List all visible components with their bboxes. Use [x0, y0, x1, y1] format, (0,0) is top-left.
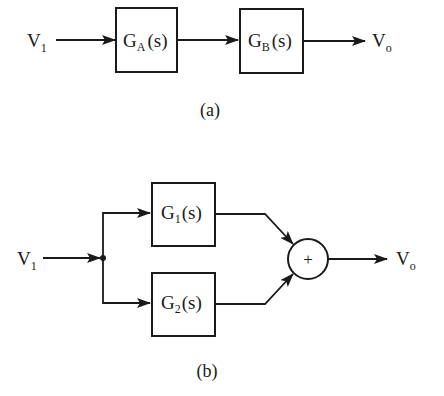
summing-plus-sign: +	[303, 250, 313, 269]
block-g1-label: G1(s)	[161, 202, 202, 226]
caption-b: (b)	[197, 361, 218, 382]
diagram-a-series: V1 GA(s) GB(s) Vo (a)	[27, 8, 392, 121]
block-diagrams: V1 GA(s) GB(s) Vo (a) V1 G1(s) G2(	[0, 0, 444, 396]
output-label-b: Vo	[396, 248, 416, 273]
caption-a: (a)	[200, 100, 220, 121]
input-label-b: V1	[17, 248, 37, 273]
input-label-a: V1	[27, 30, 47, 55]
branch-arrow-lower	[103, 258, 150, 303]
output-label-a: Vo	[372, 30, 392, 55]
branch-arrow-upper	[103, 213, 150, 258]
arrow-g1-sum	[215, 214, 293, 244]
arrow-g2-sum	[215, 274, 293, 304]
block-g2-label: G2(s)	[161, 292, 202, 316]
diagram-b-parallel: V1 G1(s) G2(s) + Vo (b)	[17, 183, 416, 382]
